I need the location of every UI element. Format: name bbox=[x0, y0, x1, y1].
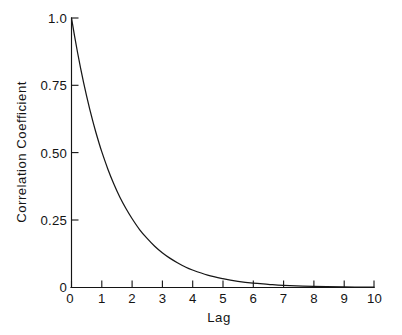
x-tick-label-5: 5 bbox=[219, 291, 227, 306]
y-axis-title: Correlation Coefficient bbox=[14, 81, 29, 223]
correlation-curve bbox=[72, 18, 375, 287]
x-tick-label-4: 4 bbox=[189, 291, 197, 306]
y-tick-label-1.0: 1.0 bbox=[48, 11, 67, 26]
x-tick-label-0: 0 bbox=[66, 291, 74, 306]
y-axis-tick-labels: 1.0 0.75 0.50 0.25 0 bbox=[41, 11, 67, 295]
x-tick-label-10: 10 bbox=[367, 291, 382, 306]
x-tick-label-3: 3 bbox=[159, 291, 167, 306]
y-axis-ticks bbox=[72, 18, 79, 220]
y-tick-label-0.25: 0.25 bbox=[41, 213, 67, 228]
x-tick-label-1: 1 bbox=[98, 291, 106, 306]
correlation-decay-chart: 1.0 0.75 0.50 0.25 0 0 1 2 3 4 bbox=[0, 0, 402, 335]
x-tick-label-2: 2 bbox=[128, 291, 136, 306]
x-axis-tick-labels: 0 1 2 3 4 5 6 7 8 9 10 bbox=[66, 291, 382, 306]
y-tick-label-0.75: 0.75 bbox=[41, 78, 67, 93]
x-tick-label-9: 9 bbox=[340, 291, 348, 306]
x-axis-title: Lag bbox=[207, 310, 231, 325]
x-tick-label-6: 6 bbox=[250, 291, 258, 306]
x-tick-label-7: 7 bbox=[280, 291, 288, 306]
y-tick-label-0.50: 0.50 bbox=[41, 146, 67, 161]
x-tick-label-8: 8 bbox=[310, 291, 318, 306]
chart-figure: 1.0 0.75 0.50 0.25 0 0 1 2 3 4 bbox=[0, 0, 402, 335]
